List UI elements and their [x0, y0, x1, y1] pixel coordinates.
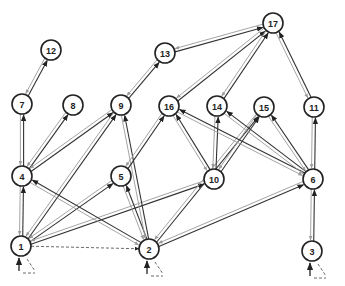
- node-8: 8: [63, 95, 83, 115]
- node-12: 12: [41, 40, 61, 60]
- node-label: 13: [160, 49, 170, 59]
- edge-10-14: [213, 116, 218, 169]
- node-2: 2: [139, 239, 159, 259]
- node-label: 6: [310, 175, 315, 185]
- edge-11-17: [276, 32, 311, 98]
- node-label: 14: [212, 102, 222, 112]
- node-1: 1: [11, 236, 31, 256]
- node-10: 10: [204, 169, 224, 189]
- node-label: 16: [164, 102, 174, 112]
- start-marker-2: [147, 261, 163, 276]
- node-label: 5: [118, 172, 123, 182]
- edge-2-6: [158, 181, 303, 246]
- node-13: 13: [155, 43, 175, 63]
- graph-canvas: 1234567891011121314151617: [0, 0, 345, 286]
- node-label: 4: [19, 172, 24, 182]
- edge-6-11: [312, 117, 316, 169]
- node-15: 15: [254, 97, 274, 117]
- start-marker-1: [19, 258, 35, 273]
- edge-1-4: [20, 186, 24, 236]
- node-label: 12: [46, 46, 56, 56]
- node-14: 14: [207, 96, 227, 116]
- node-6: 6: [303, 169, 323, 189]
- node-11: 11: [304, 97, 324, 117]
- node-label: 9: [118, 101, 123, 111]
- edge-1-2: [31, 246, 139, 249]
- node-9: 9: [111, 95, 131, 115]
- node-4: 4: [12, 166, 32, 186]
- node-label: 15: [259, 103, 269, 113]
- start-markers-layer: [19, 258, 326, 278]
- node-label: 3: [309, 247, 314, 257]
- edge-5-16: [126, 113, 164, 168]
- node-16: 16: [159, 96, 179, 116]
- edge-13-17: [175, 24, 263, 52]
- edge-7-12: [26, 58, 47, 96]
- edge-4-7: [20, 114, 23, 166]
- edge-10-16: [173, 115, 210, 171]
- node-label: 10: [209, 175, 219, 185]
- node-label: 7: [19, 100, 24, 110]
- node-17: 17: [263, 13, 283, 33]
- start-marker-3: [310, 263, 326, 278]
- edge-14-17: [222, 30, 268, 98]
- edge-6-14: [224, 111, 306, 173]
- node-label: 17: [268, 19, 278, 29]
- node-label: 1: [18, 242, 23, 252]
- edge-9-13: [127, 60, 159, 99]
- node-label: 11: [309, 103, 319, 113]
- node-label: 8: [70, 101, 75, 111]
- node-5: 5: [111, 166, 131, 186]
- node-label: 2: [146, 245, 151, 255]
- node-7: 7: [12, 94, 32, 114]
- edge-4-9: [30, 110, 113, 172]
- edge-3-6: [311, 189, 315, 241]
- node-3: 3: [302, 241, 322, 261]
